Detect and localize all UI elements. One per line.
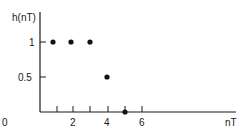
data-point: [87, 39, 92, 44]
impulse-response-chart: h(nT) 1 0.5 0 2 4 6 nT: [0, 0, 246, 129]
data-point: [122, 109, 127, 114]
data-point: [104, 74, 109, 79]
x-tick-label-0: 0: [2, 117, 8, 128]
y-axis-label: h(nT): [12, 12, 36, 23]
y-tick-label-0.5: 0.5: [18, 72, 32, 83]
data-point: [68, 39, 73, 44]
y-tick-label-1: 1: [29, 37, 35, 48]
x-tick-label-6: 6: [139, 117, 145, 128]
x-tick-label-2: 2: [70, 117, 76, 128]
x-axis-label: nT: [225, 117, 237, 128]
x-tick-label-4: 4: [104, 117, 110, 128]
data-point: [50, 39, 55, 44]
